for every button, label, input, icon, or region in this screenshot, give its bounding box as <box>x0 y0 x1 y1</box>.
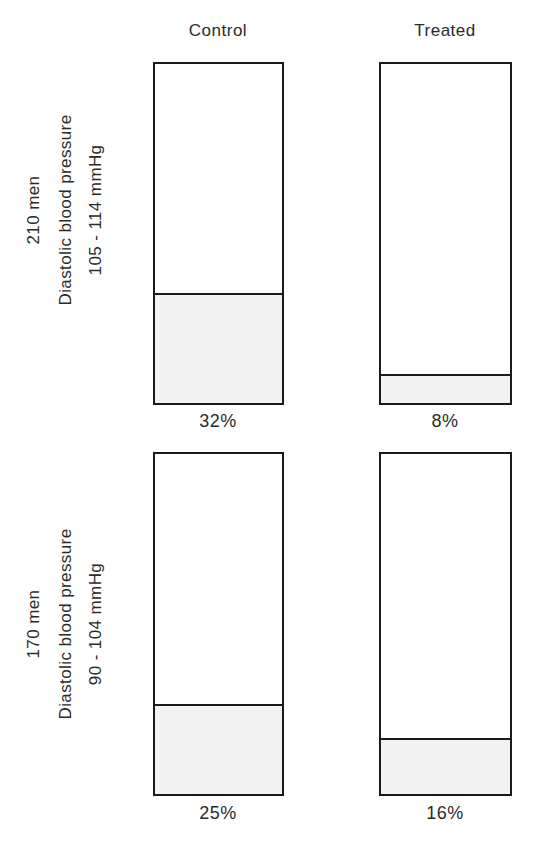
row-2-sample-size: 170 men <box>24 590 44 659</box>
row-1-measure: Diastolic blood pressure <box>56 114 76 305</box>
row-1-sample-size: 210 men <box>24 176 44 245</box>
bar-row2-treated <box>379 452 512 796</box>
bar-row1-control <box>153 62 284 405</box>
bar-row1-control-fill <box>155 293 282 403</box>
value-label-row2-treated: 16% <box>375 803 515 824</box>
row-label-2: 170 men Diastolic blood pressure 90 - 10… <box>0 452 120 812</box>
bar-row2-treated-fill <box>381 738 510 794</box>
bar-row2-control-fill <box>155 704 282 794</box>
row-label-1: 210 men Diastolic blood pressure 105 - 1… <box>0 62 120 422</box>
column-header-treated: Treated <box>375 21 515 41</box>
value-label-row1-control: 32% <box>148 411 288 432</box>
column-header-control: Control <box>148 21 288 41</box>
bar-row1-treated-fill <box>381 374 510 403</box>
bar-row2-control <box>153 452 284 796</box>
row-1-range: 105 - 114 mmHg <box>86 145 106 276</box>
value-label-row2-control: 25% <box>148 803 288 824</box>
row-2-measure: Diastolic blood pressure <box>56 528 76 719</box>
bar-row1-treated <box>379 62 512 405</box>
value-label-row1-treated: 8% <box>375 411 515 432</box>
row-2-range: 90 - 104 mmHg <box>86 563 106 685</box>
